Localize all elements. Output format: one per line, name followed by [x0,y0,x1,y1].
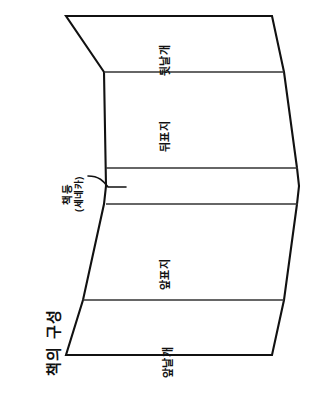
panel-label-front-cover: 앞표지 [160,259,172,291]
figure-title: 책의 구성 [46,308,62,376]
annotation-spine: 책등 (세네카) [62,176,84,212]
panel-label-back-cover: 뒤표지 [160,121,172,153]
annotation-spine-sublabel: (세네카) [74,176,84,212]
panel-label-front-flap: 앞날개 [163,347,175,379]
figure-canvas: 책의 구성 뒷날개 뒤표지 앞표지 앞날개 책등 (세네카) [0,0,309,401]
panel-label-back-flap: 뒷날개 [160,45,172,77]
jacket-outline [66,16,299,355]
annotation-spine-label: 책등 [61,184,73,205]
